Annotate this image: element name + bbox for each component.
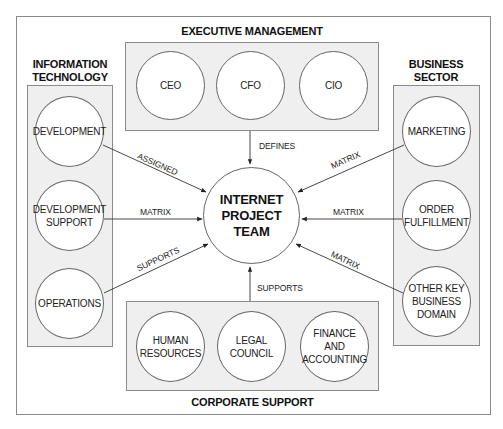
business-title-line-1: BUSINESS	[388, 58, 484, 71]
label-line: FULFILLMENT	[404, 217, 469, 228]
label-line: DOMAIN	[417, 309, 456, 320]
label-line: TEAM	[233, 224, 269, 239]
label-line: INTERNET	[220, 192, 283, 207]
node-label: DEVELOPMENTSUPPORT	[33, 203, 106, 229]
node-legal-council: LEGALCOUNCIL	[217, 311, 286, 382]
label-line: LEGAL	[236, 335, 267, 346]
label-line: ORDER	[419, 204, 454, 215]
label-line: BUSINESS	[412, 296, 461, 307]
label-line: OTHER KEY	[409, 283, 465, 294]
node-cio: CIO	[299, 51, 368, 120]
node-marketing: MARKETING	[402, 96, 471, 167]
node-finance-accounting: FINANCEANDACCOUNTING	[300, 311, 369, 382]
label-line: PROJECT	[221, 208, 281, 223]
it-title-line-2: TECHNOLOGY	[22, 71, 118, 84]
label-line: AND	[324, 341, 345, 352]
node-label: CFO	[240, 79, 261, 92]
edge-label-supports-corporate: SUPPORTS	[257, 283, 303, 293]
node-label: FINANCEANDACCOUNTING	[302, 327, 367, 366]
node-label: LEGALCOUNCIL	[230, 334, 274, 360]
edge-label-matrix-order: MATRIX	[333, 207, 364, 217]
node-label: OPERATIONS	[38, 297, 101, 310]
label-line: ACCOUNTING	[302, 354, 367, 365]
node-cfo: CFO	[216, 51, 285, 120]
label-line: COUNCIL	[230, 348, 274, 359]
business-title-line-2: SECTOR	[388, 71, 484, 84]
corporate-group-title: CORPORATE SUPPORT	[126, 396, 379, 409]
edge-label-defines: DEFINES	[259, 141, 295, 151]
label-line: SUPPORT	[46, 217, 93, 228]
label-line: RESOURCES	[140, 348, 202, 359]
node-other-key-business-domain: OTHER KEYBUSINESSDOMAIN	[402, 266, 471, 337]
node-ceo: CEO	[136, 51, 205, 120]
node-label: MARKETING	[408, 125, 466, 138]
node-label: OTHER KEYBUSINESSDOMAIN	[409, 282, 465, 321]
label-line: DEVELOPMENT	[33, 204, 106, 215]
node-operations: OPERATIONS	[35, 268, 104, 339]
node-label: INTERNETPROJECTTEAM	[220, 192, 283, 240]
executive-group-title: EXECUTIVE MANAGEMENT	[125, 25, 379, 38]
node-label: CIO	[325, 79, 342, 92]
business-group-title: BUSINESS SECTOR	[388, 58, 484, 84]
it-group-title: INFORMATION TECHNOLOGY	[22, 58, 118, 84]
label-line: FINANCE	[313, 328, 356, 339]
node-label: HUMANRESOURCES	[140, 334, 202, 360]
node-label: CEO	[160, 79, 181, 92]
it-title-line-1: INFORMATION	[22, 58, 118, 71]
node-development-support: DEVELOPMENTSUPPORT	[35, 180, 104, 251]
edge-label-matrix-dev-support: MATRIX	[140, 207, 171, 217]
org-diagram: EXECUTIVE MANAGEMENT CEO CFO CIO INFORMA…	[0, 0, 503, 429]
node-label: DEVELOPMENT	[33, 125, 106, 138]
node-order-fulfillment: ORDERFULFILLMENT	[402, 180, 471, 251]
node-human-resources: HUMANRESOURCES	[136, 311, 205, 382]
node-label: ORDERFULFILLMENT	[404, 203, 469, 229]
label-line: HUMAN	[153, 335, 189, 346]
node-internet-project-team: INTERNETPROJECTTEAM	[203, 167, 300, 264]
node-development: DEVELOPMENT	[35, 96, 104, 167]
